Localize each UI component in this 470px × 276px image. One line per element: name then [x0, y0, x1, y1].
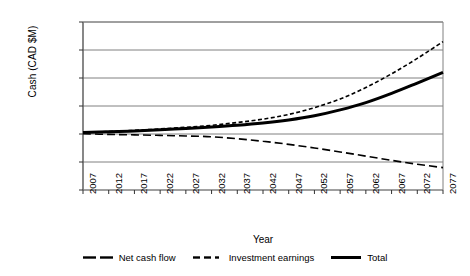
legend-item: Net cash flow: [83, 252, 176, 263]
legend-label: Investment earnings: [229, 252, 315, 263]
legend-key-short-dash-key: [193, 254, 223, 261]
series-line-total: [83, 72, 443, 132]
x-tick-label-text: 2007: [87, 173, 98, 194]
cash-projection-chart: Cash (CAD $M) 400,000300,000200,000100,0…: [0, 0, 470, 276]
x-tick-label-text: 2037: [241, 173, 252, 194]
x-tick-label-text: 2077: [447, 173, 458, 194]
x-tick-label-text: 2032: [216, 173, 227, 194]
legend-key-long-dash-key: [83, 254, 113, 261]
x-tick-label-text: 2062: [370, 173, 381, 194]
x-tick-label-text: 2047: [293, 173, 304, 194]
x-tick-label-text: 2022: [164, 173, 175, 194]
legend-label: Total: [367, 252, 387, 263]
x-tick-label-text: 2072: [421, 173, 432, 194]
y-axis-ticks: 400,000300,000200,000100,0000-100,000-20…: [0, 0, 78, 276]
chart-legend: Net cash flowInvestment earningsTotal: [0, 252, 470, 263]
x-axis-title: Year: [83, 234, 443, 245]
legend-item: Total: [331, 252, 387, 263]
legend-key-solid-key: [331, 254, 361, 261]
series-line-net-cash-flow: [83, 134, 443, 168]
series-line-investment-earnings: [83, 42, 443, 133]
x-tick-label-text: 2017: [138, 173, 149, 194]
x-tick-label-text: 2012: [113, 173, 124, 194]
legend-label: Net cash flow: [119, 252, 176, 263]
x-tick-label-text: 2042: [267, 173, 278, 194]
x-tick-label-text: 2027: [190, 173, 201, 194]
x-tick-label-text: 2057: [344, 173, 355, 194]
legend-item: Investment earnings: [193, 252, 315, 263]
x-tick-label-text: 2067: [396, 173, 407, 194]
x-tick-label-text: 2052: [318, 173, 329, 194]
